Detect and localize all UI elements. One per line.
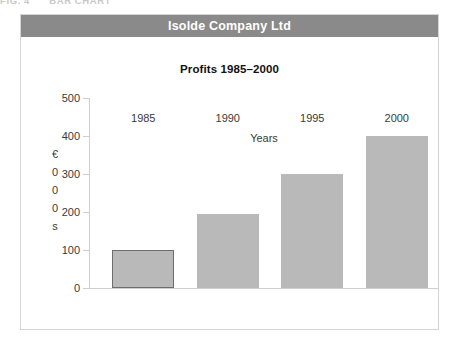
y-axis-title-char: 0 [47, 199, 63, 217]
figure-label: BAR CHART [49, 0, 111, 6]
bar-2000 [366, 136, 428, 288]
x-axis-tick-label: 2000 [385, 112, 409, 124]
y-axis-tick [83, 174, 90, 175]
y-axis-tick-label: 0 [74, 282, 80, 294]
figure-caption: FIG. 4 BAR CHART [0, 0, 459, 7]
x-axis-tick-label: 1995 [300, 112, 324, 124]
bar-1990 [197, 214, 259, 288]
plot-area: 0100200300400500 1985199019952000 Years [89, 98, 439, 289]
figure-number: FIG. 4 [0, 0, 30, 6]
y-axis-title-char: 0 [47, 163, 63, 181]
y-axis-tick [83, 98, 90, 99]
y-axis-title: €000s [47, 145, 63, 235]
y-axis-tick-label: 200 [62, 206, 80, 218]
y-axis-tick [83, 288, 90, 289]
y-axis-tick-label: 500 [62, 92, 80, 104]
bar-1995 [281, 174, 343, 288]
y-axis-tick-label: 300 [62, 168, 80, 180]
x-axis-title: Years [89, 132, 439, 144]
y-axis-tick-label: 400 [62, 130, 80, 142]
y-axis-line [89, 98, 90, 289]
bar-1985 [112, 250, 174, 288]
y-axis-title-char: s [47, 217, 63, 235]
y-axis-tick [83, 250, 90, 251]
chart-title: Profits 1985–2000 [21, 63, 438, 75]
panel-header-title: Isolde Company Ltd [21, 15, 438, 37]
chart-panel: Isolde Company Ltd Profits 1985–2000 €00… [20, 14, 439, 330]
x-axis-line [89, 288, 439, 289]
y-axis-tick [83, 212, 90, 213]
x-axis-tick-label: 1985 [131, 112, 155, 124]
y-axis-title-char: € [47, 145, 63, 163]
x-axis-tick-label: 1990 [216, 112, 240, 124]
y-axis-title-char: 0 [47, 181, 63, 199]
y-axis-tick-label: 100 [62, 244, 80, 256]
